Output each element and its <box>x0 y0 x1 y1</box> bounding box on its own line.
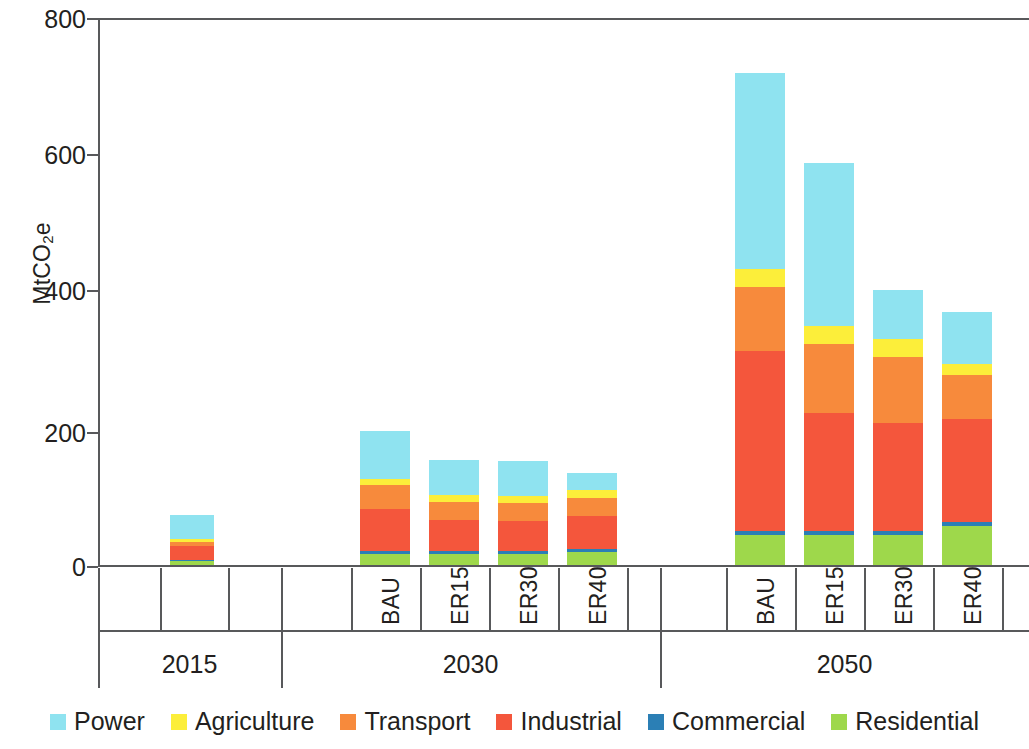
bar-segment-residential <box>735 535 785 565</box>
x-label-2030-er15: ER15 <box>447 566 474 625</box>
bar-segment-agriculture <box>567 490 617 498</box>
bar-segment-residential <box>360 554 410 565</box>
legend-label-transport: Transport <box>364 707 470 736</box>
bar-segment-industrial <box>498 521 548 551</box>
bar-segment-transport <box>873 357 923 423</box>
legend-label-residential: Residential <box>855 707 979 736</box>
bar-segment-agriculture <box>942 364 992 375</box>
x-label-2050-er15: ER15 <box>822 566 849 625</box>
legend-swatch-commercial <box>648 714 664 730</box>
x-tick-sep <box>795 568 797 630</box>
bar-2030-er15 <box>429 460 479 565</box>
legend-label-power: Power <box>74 707 145 736</box>
bar-segment-agriculture <box>804 326 854 344</box>
bar-segment-residential <box>429 554 479 565</box>
bar-segment-transport <box>942 375 992 419</box>
bar-2030-bau <box>360 431 410 565</box>
bar-segment-power <box>429 460 479 495</box>
bar-segment-industrial <box>735 351 785 531</box>
legend-swatch-agriculture <box>171 714 187 730</box>
y-axis-title-tail: e <box>29 222 55 235</box>
emissions-stacked-bar-chart: MtCO2e 800 600 400 200 0 <box>0 0 1029 749</box>
x-group-label-2030: 2030 <box>281 650 660 679</box>
legend-swatch-industrial <box>496 714 512 730</box>
y-tick-0 <box>87 566 98 568</box>
bar-2030-er30 <box>498 461 548 565</box>
legend-swatch-power <box>50 714 66 730</box>
x-group-label-2015: 2015 <box>98 650 281 679</box>
bar-segment-industrial <box>567 516 617 549</box>
y-axis-line <box>98 18 100 566</box>
bar-segment-industrial <box>804 413 854 531</box>
chart-legend: Power Agriculture Transport Industrial C… <box>0 707 1029 736</box>
bar-segment-industrial <box>873 423 923 531</box>
bar-segment-power <box>498 461 548 496</box>
y-tick-200 <box>87 432 98 434</box>
bar-segment-agriculture <box>735 269 785 287</box>
bar-2050-er40 <box>942 312 992 565</box>
x-tick-sep <box>489 568 491 630</box>
x-tick-sep <box>420 568 422 630</box>
legend-item-agriculture: Agriculture <box>171 707 315 736</box>
bar-segment-power <box>360 431 410 479</box>
bar-segment-transport <box>567 498 617 516</box>
bar-segment-residential <box>170 561 214 565</box>
legend-label-agriculture: Agriculture <box>195 707 315 736</box>
legend-swatch-transport <box>340 714 356 730</box>
bar-segment-power <box>942 312 992 364</box>
y-tick-400 <box>87 290 98 292</box>
y-tick-600 <box>87 154 98 156</box>
bar-segment-transport <box>804 344 854 413</box>
x-tick-sep <box>933 568 935 630</box>
x-label-2050-bau: BAU <box>753 577 780 625</box>
bar-2050-bau <box>735 73 785 565</box>
bar-segment-power <box>170 515 214 539</box>
bar-segment-industrial <box>942 419 992 522</box>
x-tick-sep <box>228 568 230 630</box>
bar-segment-residential <box>498 554 548 565</box>
x-axis-secondary-line <box>98 630 1029 632</box>
bar-segment-residential <box>873 535 923 565</box>
bar-segment-agriculture <box>498 496 548 503</box>
legend-item-commercial: Commercial <box>648 707 805 736</box>
bar-segment-power <box>873 290 923 339</box>
x-label-2030-er40: ER40 <box>585 566 612 625</box>
x-tick-sep <box>558 568 560 630</box>
x-tick-sep <box>627 568 629 630</box>
bar-segment-transport <box>360 485 410 509</box>
bar-segment-power <box>567 473 617 490</box>
y-axis-title-sub: 2 <box>39 235 56 244</box>
bar-2015 <box>170 515 214 565</box>
legend-item-transport: Transport <box>340 707 470 736</box>
y-tick-label-600: 600 <box>10 141 86 170</box>
x-tick-sep <box>351 568 353 630</box>
x-tick-sep <box>864 568 866 630</box>
bar-segment-residential <box>942 526 992 565</box>
bar-segment-transport <box>735 287 785 351</box>
bar-segment-residential <box>804 535 854 565</box>
bar-segment-agriculture <box>873 339 923 357</box>
legend-item-power: Power <box>50 707 145 736</box>
y-tick-800 <box>87 18 98 20</box>
legend-item-residential: Residential <box>831 707 979 736</box>
bar-segment-power <box>804 163 854 326</box>
bar-segment-industrial <box>360 509 410 551</box>
bar-2030-er40 <box>567 473 617 565</box>
bar-segment-power <box>735 73 785 269</box>
y-axis-title: MtCO2e <box>29 184 56 344</box>
plot-top-border <box>98 18 1029 20</box>
x-label-2030-bau: BAU <box>378 577 405 625</box>
x-label-2030-er30: ER30 <box>516 566 543 625</box>
bar-segment-industrial <box>429 520 479 551</box>
y-tick-label-200: 200 <box>10 419 86 448</box>
bar-2050-er15 <box>804 163 854 565</box>
bar-segment-industrial <box>170 546 214 560</box>
legend-item-industrial: Industrial <box>496 707 621 736</box>
legend-label-commercial: Commercial <box>672 707 805 736</box>
legend-swatch-residential <box>831 714 847 730</box>
x-axis-line <box>98 565 1029 567</box>
x-group-label-2050: 2050 <box>660 650 1029 679</box>
y-tick-label-0: 0 <box>10 553 86 582</box>
bar-segment-transport <box>429 502 479 520</box>
x-tick-sep <box>726 568 728 630</box>
